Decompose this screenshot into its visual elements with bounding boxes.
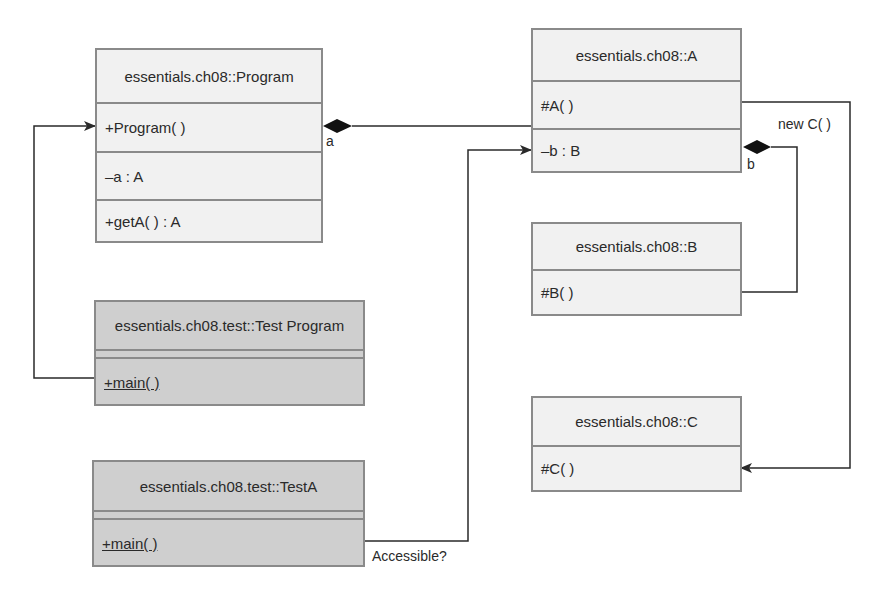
class-attributes-empty xyxy=(94,510,363,518)
class-name: essentials.ch08::A xyxy=(533,30,740,80)
static-method: +main( ) xyxy=(104,374,159,391)
dependency-testa-a xyxy=(364,150,531,541)
composition-diamond-icon xyxy=(743,140,771,154)
class-member: +getA( ) : A xyxy=(97,199,321,241)
class-test-program[interactable]: essentials.ch08.test::Test Program +main… xyxy=(94,300,365,406)
class-member: +main( ) xyxy=(94,518,363,567)
class-member: +main( ) xyxy=(96,357,363,406)
class-member: #B( ) xyxy=(533,269,740,314)
class-test-a[interactable]: essentials.ch08.test::TestA +main( ) xyxy=(92,460,365,567)
accessible-label: Accessible? xyxy=(372,548,447,564)
composition-diamond-icon xyxy=(323,119,352,133)
class-member: –b : B xyxy=(533,128,740,171)
class-member: –a : A xyxy=(97,151,321,199)
class-a[interactable]: essentials.ch08::A #A( ) –b : B xyxy=(531,28,742,173)
class-name: essentials.ch08.test::Test Program xyxy=(96,302,363,349)
class-member: #C( ) xyxy=(533,445,740,490)
class-member: #A( ) xyxy=(533,80,740,128)
static-method: +main( ) xyxy=(102,535,157,552)
class-name: essentials.ch08::Program xyxy=(97,50,321,102)
new-c-label: new C( ) xyxy=(778,116,831,132)
role-label-a: a xyxy=(326,133,334,149)
class-program[interactable]: essentials.ch08::Program +Program( ) –a … xyxy=(95,48,323,243)
class-name: essentials.ch08::C xyxy=(533,398,740,445)
class-b[interactable]: essentials.ch08::B #B( ) xyxy=(531,222,742,316)
dependency-testprogram-program xyxy=(34,126,95,378)
class-attributes-empty xyxy=(96,349,363,357)
role-label-b: b xyxy=(747,156,755,172)
class-name: essentials.ch08::B xyxy=(533,224,740,269)
class-member: +Program( ) xyxy=(97,102,321,151)
composition-program-a xyxy=(323,119,531,133)
class-c[interactable]: essentials.ch08::C #C( ) xyxy=(531,396,742,492)
dependency-a-c xyxy=(741,102,850,468)
class-name: essentials.ch08.test::TestA xyxy=(94,462,363,510)
